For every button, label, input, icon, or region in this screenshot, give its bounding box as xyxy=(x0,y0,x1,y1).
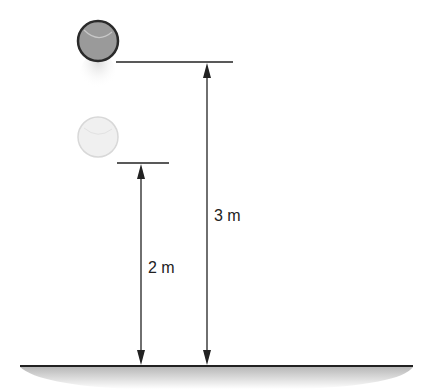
diagram-canvas xyxy=(0,0,444,389)
ground-shadow xyxy=(20,367,413,389)
dimension-arrow-3m xyxy=(203,63,211,365)
dimension-arrow-2m xyxy=(137,164,145,365)
label-3m: 3 m xyxy=(214,207,241,225)
ball-at-3m xyxy=(78,21,118,61)
label-2m: 2 m xyxy=(148,259,175,277)
ball-at-2m xyxy=(78,117,118,157)
